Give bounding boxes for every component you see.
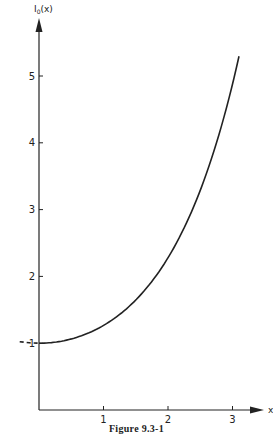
x-axis-arrow-icon xyxy=(250,407,264,414)
i0-curve xyxy=(39,56,239,343)
y-tick-label: 5 xyxy=(29,71,35,82)
y-tick-label: 3 xyxy=(29,204,35,215)
y-axis-arrow-icon xyxy=(36,18,43,32)
figure-caption: Figure 9.3-1 xyxy=(0,423,273,434)
y-tick-labels: 12345 xyxy=(29,71,35,349)
y-tick-label: 4 xyxy=(29,137,35,148)
chart-plot: 12345 123 I0(x) x xyxy=(0,0,273,446)
y-axis-label: I0(x) xyxy=(34,4,53,15)
x-axis-label: x xyxy=(268,405,273,415)
y-tick-label: 2 xyxy=(29,271,35,282)
data-series xyxy=(20,56,239,343)
axes xyxy=(39,28,252,410)
